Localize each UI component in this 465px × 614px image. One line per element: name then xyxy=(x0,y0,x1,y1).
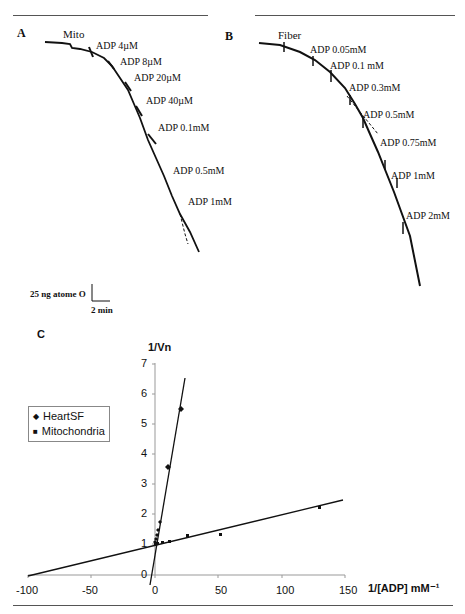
diamond-marker-icon: ◆ xyxy=(33,409,39,424)
square-marker-icon: ■ xyxy=(33,424,38,439)
x-tick-150: 150 xyxy=(339,584,357,596)
chart-legend: ◆ HeartSF ■ Mitochondria xyxy=(28,406,110,442)
y-tick-5: 5 xyxy=(141,417,147,429)
x-axis-title: 1/[ADP] mM⁻¹ xyxy=(368,582,439,595)
y-tick-1: 1 xyxy=(141,537,147,549)
y-tick-6: 6 xyxy=(141,387,147,399)
y-tick-2: 2 xyxy=(141,507,147,519)
x-tick-0: 0 xyxy=(152,584,158,596)
bottom-rule xyxy=(13,605,453,606)
y-tick-3: 3 xyxy=(141,477,147,489)
x-tick-100: 100 xyxy=(276,584,294,596)
y-tick-7: 7 xyxy=(141,357,147,369)
legend-item-mitochondria: ■ Mitochondria xyxy=(33,424,105,439)
x-tick-neg100: -100 xyxy=(16,584,38,596)
legend-item-heartsf: ◆ HeartSF xyxy=(33,409,105,424)
x-tick-neg50: -50 xyxy=(82,584,98,596)
lineweaver-burk-plot xyxy=(0,0,465,614)
x-tick-50: 50 xyxy=(215,584,227,596)
y-tick-0: 0 xyxy=(141,568,147,580)
legend-label-mitochondria: Mitochondria xyxy=(42,424,105,439)
y-tick-4: 4 xyxy=(141,447,147,459)
legend-label-heartsf: HeartSF xyxy=(43,409,84,424)
